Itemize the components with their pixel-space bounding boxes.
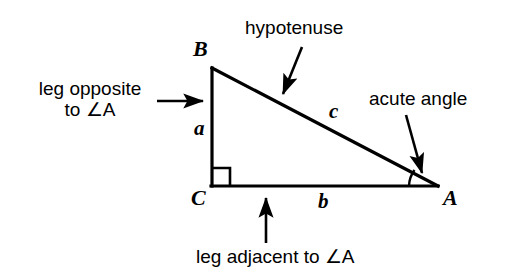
vertex-label-b: B xyxy=(193,37,208,62)
label-hypotenuse: hypotenuse xyxy=(245,17,343,38)
label-acute-angle: acute angle xyxy=(369,88,467,109)
vertex-label-a: A xyxy=(443,186,458,211)
side-label-a: a xyxy=(194,117,205,141)
diagram-canvas: leg oppositeto ∠A hypotenuse acute angle… xyxy=(0,0,527,275)
label-leg-opposite: leg oppositeto ∠A xyxy=(14,78,166,121)
label-leg-adjacent: leg adjacent to ∠A xyxy=(196,246,355,267)
label-leg-opposite-line2: to ∠A xyxy=(65,99,116,120)
triangle-figure xyxy=(0,0,527,275)
side-label-b: b xyxy=(318,190,329,214)
label-leg-opposite-line1: leg opposite xyxy=(39,78,141,99)
hypotenuse-arrow-icon xyxy=(283,47,302,94)
hypotenuse-c-segment xyxy=(212,68,438,186)
triangle-outline xyxy=(211,68,438,186)
vertex-label-c: C xyxy=(191,186,206,211)
side-label-c: c xyxy=(329,100,338,124)
acute-angle-arrow-icon xyxy=(406,115,422,173)
right-angle-marker-icon xyxy=(212,168,230,186)
